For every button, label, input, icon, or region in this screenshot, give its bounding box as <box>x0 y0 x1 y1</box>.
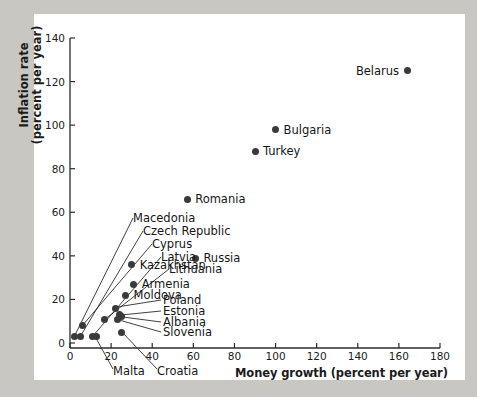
data-point-bulgaria[interactable] <box>272 126 279 133</box>
data-point-belarus[interactable] <box>404 67 411 74</box>
data-point-moldova[interactable] <box>122 292 129 299</box>
data-label-lithuania: Lithuania <box>169 262 222 276</box>
data-point-czech-republic[interactable] <box>77 333 84 340</box>
data-label-romania: Romania <box>195 192 245 206</box>
data-point-malta[interactable] <box>93 333 100 340</box>
x-tick-label-40: 40 <box>146 350 159 362</box>
y-tick-label-140: 140 <box>40 32 65 44</box>
x-tick-label-80: 80 <box>228 350 241 362</box>
x-axis-title: Money growth (percent per year) <box>235 366 448 380</box>
data-label-cyprus: Cyprus <box>152 237 192 251</box>
leader-albania <box>123 317 161 322</box>
data-label-croatia: Croatia <box>157 364 198 378</box>
data-point-cyprus[interactable] <box>79 322 86 329</box>
data-point-armenia[interactable] <box>130 281 137 288</box>
x-tick-label-60: 60 <box>187 350 200 362</box>
y-tick-label-100: 100 <box>40 119 65 131</box>
data-point-slovenia[interactable] <box>114 316 121 323</box>
leader-slovenia <box>119 320 161 332</box>
data-label-malta: Malta <box>113 364 145 378</box>
x-tick-label-140: 140 <box>348 350 368 362</box>
x-tick-label-120: 120 <box>307 350 327 362</box>
x-tick-label-20: 20 <box>104 350 117 362</box>
y-tick-label-0: 0 <box>40 337 65 349</box>
data-label-czech-republic: Czech Republic <box>143 224 231 238</box>
y-tick-label-120: 120 <box>40 76 65 88</box>
scatter-plot: Money growth (percent per year) Inflatio… <box>0 0 477 397</box>
x-tick-label-100: 100 <box>266 350 286 362</box>
data-point-romania[interactable] <box>184 196 191 203</box>
data-point-kazakhstan[interactable] <box>128 261 135 268</box>
data-point-turkey[interactable] <box>252 148 259 155</box>
y-axis-ticks <box>70 38 75 343</box>
x-tick-label-160: 160 <box>389 350 409 362</box>
leader-estonia <box>121 311 161 315</box>
x-tick-label-180: 180 <box>430 350 450 362</box>
figure-root: Money growth (percent per year) Inflatio… <box>0 0 477 397</box>
data-label-turkey: Turkey <box>263 144 300 158</box>
data-label-belarus: Belarus <box>356 64 399 78</box>
axis-lines <box>70 38 440 348</box>
data-point-croatia[interactable] <box>118 329 125 336</box>
x-tick-label-0: 0 <box>67 350 74 362</box>
y-tick-label-20: 20 <box>40 293 65 305</box>
data-label-bulgaria: Bulgaria <box>284 123 332 137</box>
x-axis-ticks <box>70 343 440 348</box>
y-tick-label-60: 60 <box>40 206 65 218</box>
data-point-lithuania[interactable] <box>101 316 108 323</box>
data-label-slovenia: Slovenia <box>163 325 212 339</box>
data-label-macedonia: Macedonia <box>133 211 195 225</box>
y-tick-label-40: 40 <box>40 250 65 262</box>
y-tick-label-80: 80 <box>40 163 65 175</box>
